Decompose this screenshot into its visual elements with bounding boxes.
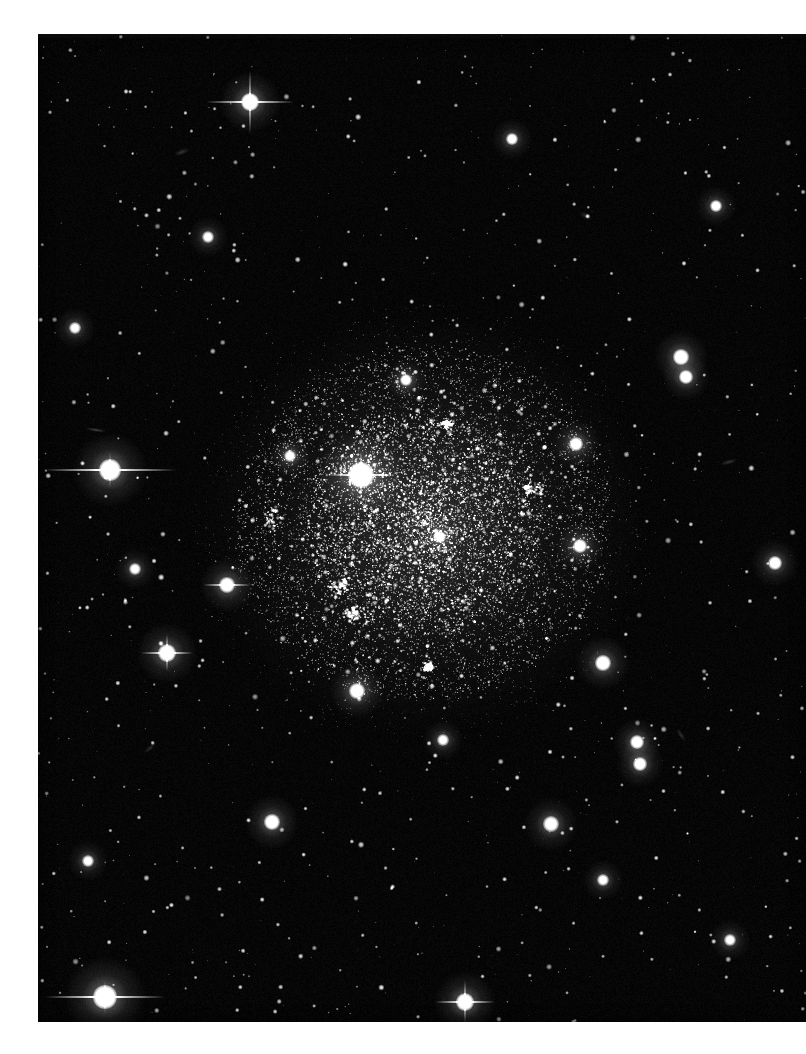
- photographic-print-page: Black-and-white deep-sky photograph of a…: [0, 0, 806, 1054]
- astronomical-image-plate: [38, 34, 806, 1022]
- paper-margin-bottom: [0, 1022, 806, 1054]
- paper-margin-top: [0, 0, 806, 34]
- paper-margin-left: [0, 0, 38, 1054]
- night-sky-canvas: [38, 34, 806, 1022]
